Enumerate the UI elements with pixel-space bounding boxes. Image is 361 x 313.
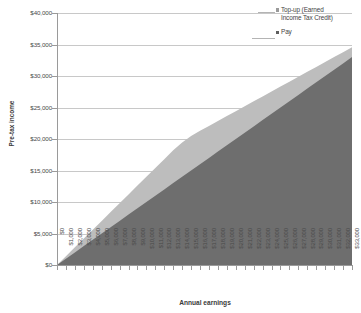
y-axis-tick (52, 76, 57, 77)
y-axis-tick-label: $40,000 (4, 9, 52, 16)
x-axis-tick-label: $11,000 (158, 228, 165, 270)
x-axis-tick-label: $5,000 (104, 228, 111, 270)
legend-label-top-up-line1: Top-up (Earned (281, 6, 324, 13)
legend-label-top-up: Top-up (EarnedIncome Tax Credit) (281, 6, 333, 21)
x-axis-tick (307, 266, 308, 270)
x-axis-tick-label: $0 (59, 228, 66, 270)
y-axis-tick-label: $5,000 (4, 230, 52, 237)
x-axis-tick-label: $15,000 (193, 228, 200, 270)
y-axis-tick (52, 234, 57, 235)
x-axis-tick-label: $12,000 (166, 228, 173, 270)
legend-leader-line-pay (252, 38, 275, 39)
legend-label-top-up-line2: Income Tax Credit) (281, 14, 333, 21)
y-axis-tick (52, 139, 57, 140)
x-axis-tick (93, 266, 94, 270)
x-axis-tick (209, 266, 210, 270)
legend-item-top-up[interactable]: Top-up (EarnedIncome Tax Credit) (276, 6, 361, 21)
x-axis-tick-label: $9,000 (140, 228, 147, 270)
x-axis-tick-label: $8,000 (131, 228, 138, 270)
y-axis-tick (52, 108, 57, 109)
x-axis-tick-label: $17,000 (211, 228, 218, 270)
x-axis-tick (316, 266, 317, 270)
x-axis-tick (57, 266, 58, 270)
legend-swatch-top-up-icon (276, 8, 279, 11)
legend-swatch-pay-icon (276, 31, 279, 34)
x-axis-tick-label: $2,000 (77, 228, 84, 270)
chart-container: $0$5,000$10,000$15,000$20,000$25,000$30,… (0, 0, 361, 313)
x-axis-tick-label: $18,000 (220, 228, 227, 270)
x-axis-tick (84, 266, 85, 270)
x-axis-tick (146, 266, 147, 270)
x-axis-tick (137, 266, 138, 270)
y-axis-tick-label: $35,000 (4, 41, 52, 48)
y-axis-tick (52, 45, 57, 46)
x-axis-tick-label: $13,000 (175, 228, 182, 270)
x-axis-tick-label: $25,000 (283, 228, 290, 270)
x-axis-tick-label: $16,000 (202, 228, 209, 270)
x-axis-tick (155, 266, 156, 270)
x-axis-tick (334, 266, 335, 270)
x-axis-tick (191, 266, 192, 270)
x-axis-tick (164, 266, 165, 270)
y-axis-title: Pre-tax income (8, 69, 15, 179)
x-axis-tick-label: $22,000 (256, 228, 263, 270)
x-axis-tick (102, 266, 103, 270)
x-axis-tick (280, 266, 281, 270)
legend: Top-up (EarnedIncome Tax Credit) Pay (276, 6, 361, 37)
x-axis-tick-label: $23,000 (265, 228, 272, 270)
legend-item-pay[interactable]: Pay (276, 28, 361, 36)
y-axis-tick-label: $10,000 (4, 198, 52, 205)
x-axis-tick-label: $4,000 (95, 228, 102, 270)
x-axis-tick-label: $1,000 (68, 228, 75, 270)
x-axis-tick (182, 266, 183, 270)
x-axis-tick (218, 266, 219, 270)
x-axis-tick (236, 266, 237, 270)
x-axis-tick (200, 266, 201, 270)
x-axis-tick-label: $30,000 (327, 228, 334, 270)
y-axis-tick (52, 171, 57, 172)
x-axis-tick-label: $32,000 (345, 228, 352, 270)
x-axis-tick-label: $7,000 (122, 228, 129, 270)
y-axis-tick (52, 13, 57, 14)
x-axis-tick (272, 266, 273, 270)
x-axis-tick-label: $24,000 (274, 228, 281, 270)
legend-leader-line-top-up (258, 12, 275, 13)
x-axis-tick (120, 266, 121, 270)
x-axis-tick (173, 266, 174, 270)
x-axis-tick-label: $6,000 (113, 228, 120, 270)
x-axis-tick (227, 266, 228, 270)
x-axis-tick (129, 266, 130, 270)
x-axis-tick-label: $14,000 (184, 228, 191, 270)
x-axis-tick-label: $28,000 (310, 228, 317, 270)
x-axis-tick (111, 266, 112, 270)
x-axis-tick-label: $20,000 (238, 228, 245, 270)
x-axis-tick (245, 266, 246, 270)
x-axis-tick (325, 266, 326, 270)
x-axis-tick-label: $10,000 (149, 228, 156, 270)
x-axis-tick (66, 266, 67, 270)
y-axis-line (57, 13, 58, 266)
x-axis-tick-label: $21,000 (247, 228, 254, 270)
x-axis-tick-label: $27,000 (301, 228, 308, 270)
x-axis-tick-label: $33,000 (354, 228, 361, 270)
x-axis-tick (75, 266, 76, 270)
x-axis-title: Annual earnings (57, 299, 353, 306)
x-axis-tick-label: $3,000 (86, 228, 93, 270)
y-axis-tick (52, 202, 57, 203)
x-axis-tick-label: $31,000 (336, 228, 343, 270)
x-axis-tick-label: $19,000 (229, 228, 236, 270)
y-axis-tick-label: $0 (4, 261, 52, 268)
x-axis-tick (343, 266, 344, 270)
x-axis-tick (352, 266, 353, 270)
x-axis-tick (263, 266, 264, 270)
x-axis-tick (298, 266, 299, 270)
x-axis-tick (289, 266, 290, 270)
x-axis-tick-label: $26,000 (292, 228, 299, 270)
legend-label-pay: Pay (281, 28, 292, 36)
x-axis-tick-label: $29,000 (318, 228, 325, 270)
x-axis-tick (254, 266, 255, 270)
